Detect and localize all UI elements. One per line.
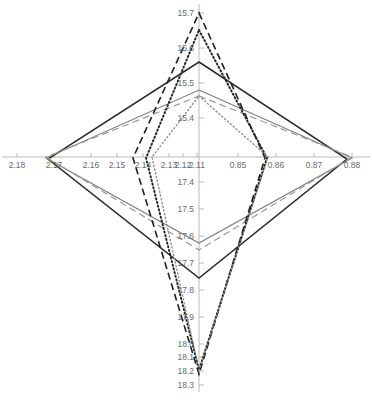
tick-label: 15.6 [177, 43, 194, 53]
tick-label: 2.16 [83, 160, 100, 170]
tick-label: 2.18 [9, 160, 26, 170]
tick-label: 18.0 [177, 339, 194, 349]
tick-label: 2.14 [135, 160, 152, 170]
tick-label: 0.85 [230, 160, 247, 170]
tick-label: 17.7 [177, 258, 194, 268]
tick-label: 2.11 [189, 160, 205, 170]
tick-label: 17.6 [177, 231, 194, 241]
tick-label: 17.9 [177, 312, 194, 322]
tick-label: 17.4 [177, 177, 194, 187]
tick-label: 2.17 [46, 160, 63, 170]
tick-label: 15.7 [177, 8, 194, 18]
tick-label: 0.88 [344, 160, 361, 170]
tick-label: 15.5 [177, 78, 194, 88]
tick-label: 18.1 [177, 352, 194, 362]
chart-canvas: 15.715.615.515.40.850.860.870.8817.417.5… [0, 0, 372, 402]
radar-chart: 15.715.615.515.40.850.860.870.8817.417.5… [0, 0, 372, 402]
tick-label: 2.15 [109, 160, 126, 170]
tick-label: 18.3 [177, 380, 194, 390]
tick-label: 15.4 [177, 113, 194, 123]
tick-label: 0.87 [306, 160, 323, 170]
tick-label: 17.8 [177, 285, 194, 295]
tick-label: 18.2 [177, 366, 194, 376]
tick-label: 17.5 [177, 204, 194, 214]
tick-label: 0.86 [268, 160, 285, 170]
